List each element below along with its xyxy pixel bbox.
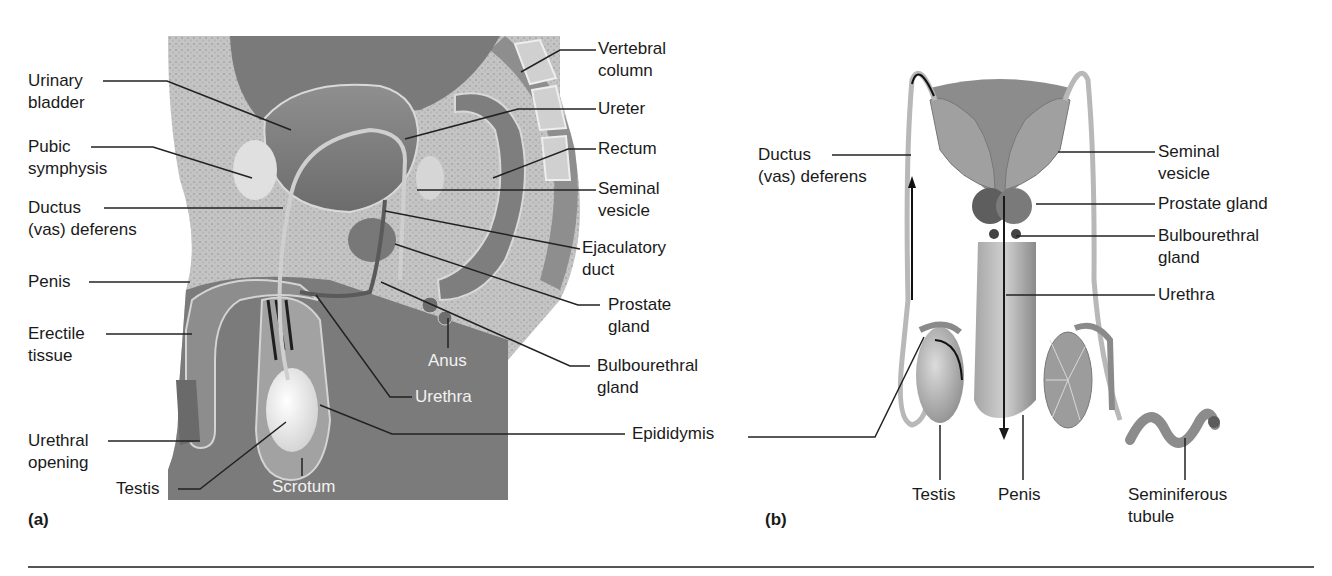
label-ureter: Ureter (598, 98, 645, 120)
label-seminal-vesicle-a: Seminal vesicle (598, 178, 659, 222)
label-ejaculatory-duct: Ejaculatory duct (582, 237, 666, 281)
label-ductus-deferens-a: Ductus (vas) deferens (28, 197, 137, 241)
label-scrotum: Scrotum (272, 476, 335, 498)
label-anus: Anus (428, 350, 467, 372)
label-epididymis: Epididymis (632, 423, 714, 445)
label-urethra-b: Urethra (1158, 284, 1215, 306)
label-pubic-symphysis: Pubic symphysis (28, 136, 107, 180)
label-prostate-gland-b: Prostate gland (1158, 193, 1268, 215)
label-bulbourethral-gland-b: Bulbourethral gland (1158, 225, 1259, 269)
label-seminiferous-tubule: Seminiferous tubule (1128, 484, 1227, 528)
label-vertebral-column: Vertebral column (598, 38, 666, 82)
bottom-divider (28, 566, 1314, 568)
panel-a-tag: (a) (28, 510, 49, 530)
label-ductus-deferens-b: Ductus (vas) deferens (758, 144, 867, 188)
label-bulbourethral-gland-a: Bulbourethral gland (597, 355, 698, 399)
label-testis-a: Testis (116, 478, 159, 500)
label-erectile-tissue: Erectile tissue (28, 323, 85, 367)
label-rectum: Rectum (598, 138, 657, 160)
label-urethra-a: Urethra (415, 386, 472, 408)
leader-lines-b (748, 152, 1185, 480)
panel-b-tag: (b) (765, 510, 787, 530)
label-seminal-vesicle-b: Seminal vesicle (1158, 141, 1219, 185)
label-prostate-gland-a: Prostate gland (608, 294, 671, 338)
label-urethral-opening: Urethral opening (28, 430, 89, 474)
label-urinary-bladder: Urinary bladder (28, 70, 85, 114)
label-penis-a: Penis (28, 271, 71, 293)
label-testis-b: Testis (912, 484, 955, 506)
label-penis-b: Penis (998, 484, 1041, 506)
